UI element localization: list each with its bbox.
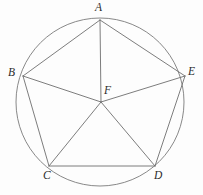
segment-EA [100,20,185,76]
segment-FA [100,20,101,102]
point-label-e: E [188,66,195,78]
point-label-f: F [104,85,111,97]
segment-AB [23,20,100,76]
point-label-a: A [95,2,102,14]
segment-FE [101,76,185,102]
segment-BC [23,76,49,166]
point-label-d: D [154,170,162,182]
geometry-canvas [0,0,203,195]
segment-DE [155,76,185,166]
point-label-b: B [8,67,15,79]
point-label-c: C [43,170,51,182]
segment-FB [23,76,101,102]
geometry-figure: ABCDEF [0,0,203,195]
segment-FD [101,102,155,166]
segment-FC [49,102,101,166]
